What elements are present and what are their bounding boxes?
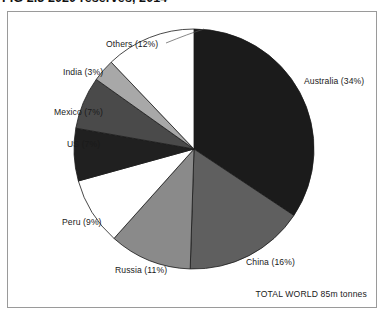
pie-chart-svg: [8, 12, 376, 307]
slice-label-russia: Russia (11%): [115, 265, 167, 275]
slice-label-others: Others (12%): [106, 39, 158, 49]
pie-chart-plot-area: Others (12%) India (3%) Mexico (7%) US (…: [8, 12, 376, 307]
slice-label-us: US (7%): [67, 139, 100, 149]
slice-label-mexico: Mexico (7%): [54, 107, 103, 117]
slice-label-china: China (16%): [246, 257, 295, 267]
pie-slice-group: [74, 29, 314, 269]
page-title: FIG 2.3 2020 reserves, 2014: [2, 0, 167, 5]
slice-label-australia: Australia (34%): [304, 76, 364, 86]
slice-label-india: India (3%): [63, 67, 103, 77]
title-strip: FIG 2.3 2020 reserves, 2014: [0, 0, 386, 9]
slice-label-peru: Peru (9%): [62, 217, 102, 227]
total-world-caption: TOTAL WORLD 85m tonnes: [255, 289, 367, 299]
chart-frame: Others (12%) India (3%) Mexico (7%) US (…: [7, 11, 377, 308]
